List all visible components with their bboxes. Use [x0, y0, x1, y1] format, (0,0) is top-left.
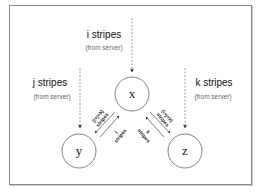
source-j: j stripes (from server) — [32, 68, 80, 128]
source-k-subtitle: (from server) — [194, 93, 231, 101]
stripe-distribution-diagram: i stripes (from server) j stripes (from … — [0, 0, 261, 194]
node-z-label: z — [182, 143, 188, 158]
node-x-label: x — [129, 86, 136, 101]
edge-label-y-to-x: j stripes — [108, 123, 128, 143]
node-y-label: y — [76, 143, 83, 158]
source-i: i stripes (from server) — [85, 18, 132, 72]
node-x: x — [115, 77, 149, 111]
node-z: z — [168, 134, 202, 168]
node-y: y — [62, 134, 96, 168]
edge-label-x-to-y: (i+j+k) stripes — [90, 107, 110, 127]
edge-label-z-to-x: k stripes — [136, 124, 156, 144]
source-i-subtitle: (from server) — [85, 44, 122, 52]
source-i-title: i stripes — [87, 29, 121, 40]
svg-text:stripes: stripes — [112, 127, 127, 144]
source-j-title: j stripes — [32, 77, 67, 88]
source-k: k stripes (from server) — [185, 68, 233, 128]
source-j-subtitle: (from server) — [33, 93, 70, 101]
edge-label-x-to-z: (i+j+k) stripes — [155, 108, 175, 128]
source-k-title: k stripes — [195, 77, 232, 88]
